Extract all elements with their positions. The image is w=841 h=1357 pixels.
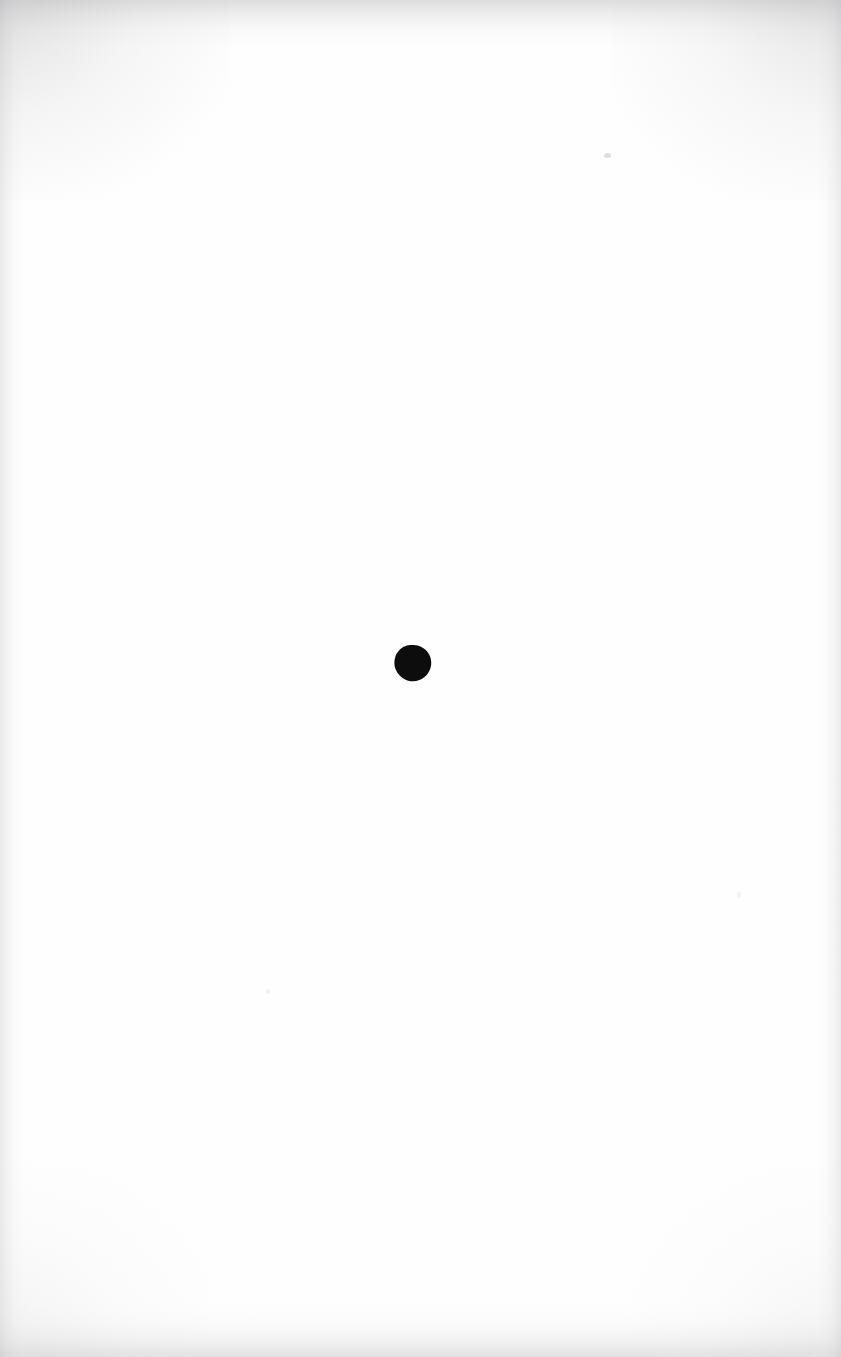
ink-dot: [393, 644, 433, 684]
scanned-page: [0, 0, 841, 1357]
